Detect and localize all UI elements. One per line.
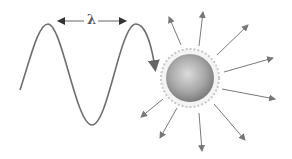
- ray: [224, 58, 273, 72]
- ray: [214, 104, 245, 140]
- ray: [199, 113, 202, 151]
- ray: [199, 12, 203, 46]
- incident-wave: [20, 24, 155, 125]
- scattering-diagram: [0, 0, 292, 159]
- ray: [169, 17, 181, 45]
- ray: [222, 89, 275, 99]
- ray: [160, 108, 177, 138]
- wavelength-label: λ: [87, 12, 96, 27]
- ray: [217, 25, 248, 55]
- ray: [141, 99, 163, 117]
- particle-sphere: [166, 54, 214, 102]
